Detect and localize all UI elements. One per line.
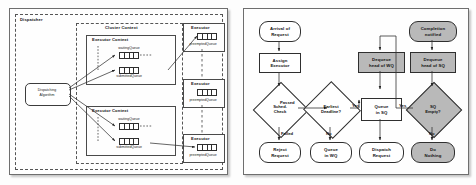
node-arrival-of-request-line2: Request [271, 32, 289, 37]
node-queue-in-sq-line2: in SQ [376, 110, 388, 115]
flowchart-panel: Arrival of Request Assign Executor Sched… [243, 8, 469, 175]
executor-context-1-waiting-queue [119, 52, 139, 59]
executor-context-2-submitted-queue [119, 138, 139, 145]
executor-context-1-waiting-queue-label: waitingQueue [106, 47, 152, 51]
executor-3-preempted-queue [197, 144, 217, 151]
executor-context-1-label: Executor Context [92, 38, 128, 42]
node-queue-in-wq: Queue in WQ [310, 142, 352, 163]
node-reject-request: Reject Request [259, 142, 301, 163]
node-dispatch-request-line2: Request [373, 153, 391, 158]
executor-context-1-submitted-queue-label: submittedQueue [104, 75, 154, 79]
edge-label-deadline-yes: Yes [352, 104, 359, 108]
executor-context-2-waiting-queue-label: waitingQueue [106, 118, 152, 122]
executor-context-2-waiting-queue [119, 123, 139, 130]
node-dequeue-head-of-sq: Dequeue head of SQ [410, 52, 456, 73]
node-queue-in-wq-line2: in WQ [325, 153, 338, 158]
executor-1-label: Executor [191, 26, 210, 30]
executor-1-preempted-queue [197, 33, 217, 40]
node-dequeue-head-of-wq: Dequeue head of WQ [358, 52, 405, 73]
executor-3-label: Executor [191, 137, 210, 141]
node-assign-executor: Assign Executor [259, 53, 301, 73]
node-dequeue-head-of-sq-line2: head of SQ [421, 63, 445, 68]
edge-label-failed: Failed [281, 132, 293, 136]
node-dequeue-head-of-wq-line2: head of WQ [369, 63, 394, 68]
node-earliest-deadline: Earliest Deadline? [311, 90, 351, 128]
executor-2-label: Executor [191, 82, 210, 86]
node-assign-executor-line2: Executor [270, 63, 289, 68]
edge-label-sq-no: No [429, 132, 435, 136]
dispatching-algorithm-label-line2: Algorithm [25, 94, 69, 98]
dispatcher-label: Dispatcher [20, 18, 43, 22]
node-arrival-of-request: Arrival of Request [259, 21, 301, 42]
executor-context-2-submitted-queue-label: submittedQueue [104, 146, 154, 150]
edge-label-sq-yes: Yes [399, 104, 406, 108]
executor-2-preempted-queue [197, 89, 217, 96]
node-sq-empty: SQ Empty? [414, 90, 452, 128]
node-do-nothing-line2: Nothing [425, 153, 442, 158]
node-reject-request-line2: Request [271, 153, 289, 158]
node-sq-empty-line2: Empty? [425, 109, 440, 114]
executor-2-preempted-queue-label: preemptedQueue [183, 99, 223, 103]
node-sched-check: Sched. Check [261, 90, 299, 128]
executor-context-2-label: Executor Context [92, 109, 128, 113]
node-earliest-deadline-line2: Deadline? [321, 109, 341, 114]
executor-1-preempted-queue-label: preemptedQueue [183, 43, 223, 47]
edge-label-deadline-no: No [326, 132, 332, 136]
dispatcher-architecture-panel: Dispatcher Cluster Context Executor Cont… [9, 8, 228, 175]
executor-3-preempted-queue-label: preemptedQueue [183, 154, 223, 158]
node-do-nothing: Do Nothing [411, 142, 455, 163]
node-completion-notified: Completion notified [409, 21, 457, 42]
diagram-canvas: Dispatcher Cluster Context Executor Cont… [0, 0, 476, 185]
node-dispatch-request: Dispatch Request [359, 142, 404, 163]
node-completion-notified-line2: notified [425, 32, 441, 37]
executor-context-1-submitted-queue [119, 67, 139, 74]
node-sched-check-line2: Check [274, 109, 287, 114]
node-queue-in-sq: Queue in SQ [361, 98, 402, 121]
dispatching-algorithm-label-line1: Dispatching [25, 89, 69, 93]
cluster-context-label: Cluster Context [105, 26, 138, 30]
